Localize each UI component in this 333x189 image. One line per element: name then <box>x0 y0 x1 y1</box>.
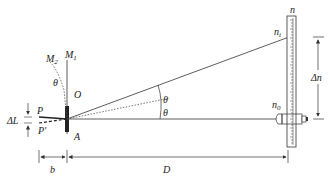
delta-l-dimension <box>24 103 32 137</box>
label-p: P <box>36 105 43 116</box>
d-dimension <box>69 150 288 163</box>
optical-lever-diagram: M1 M2 θ O A P P' ΔL θ θ n ni n0 Δn b D <box>0 0 333 189</box>
label-delta-l: ΔL <box>6 115 19 126</box>
label-n-0: n0 <box>272 99 281 112</box>
label-b: b <box>50 164 55 175</box>
normal-line <box>67 98 170 119</box>
label-a: A <box>73 131 81 142</box>
scale-ruler <box>287 16 296 147</box>
label-n-top: n <box>290 4 295 15</box>
label-theta-mirror: θ <box>53 77 58 88</box>
label-o: O <box>74 89 81 100</box>
lever-arm-displaced <box>39 119 67 123</box>
lever-arm <box>39 117 67 119</box>
label-theta-upper: θ <box>163 94 168 105</box>
label-d: D <box>162 164 171 175</box>
label-n-i: ni <box>274 26 281 39</box>
mirror-m1 <box>65 60 69 134</box>
label-m1: M1 <box>64 49 77 62</box>
theta-arc <box>158 85 161 119</box>
reflected-ray <box>67 37 289 119</box>
label-delta-n: Δn <box>310 72 322 83</box>
b-dimension <box>39 150 67 163</box>
label-theta-lower: θ <box>163 107 168 118</box>
mirror-m2 <box>50 62 67 120</box>
label-m2: M2 <box>45 53 58 66</box>
label-p-prime: P' <box>37 125 47 136</box>
